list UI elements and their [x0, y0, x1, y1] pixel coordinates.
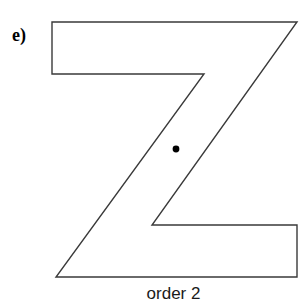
figure-caption: order 2 — [0, 284, 307, 304]
z-shape-figure — [0, 0, 307, 306]
figure-panel: e) order 2 — [0, 0, 307, 306]
center-of-rotation-dot — [173, 146, 180, 153]
